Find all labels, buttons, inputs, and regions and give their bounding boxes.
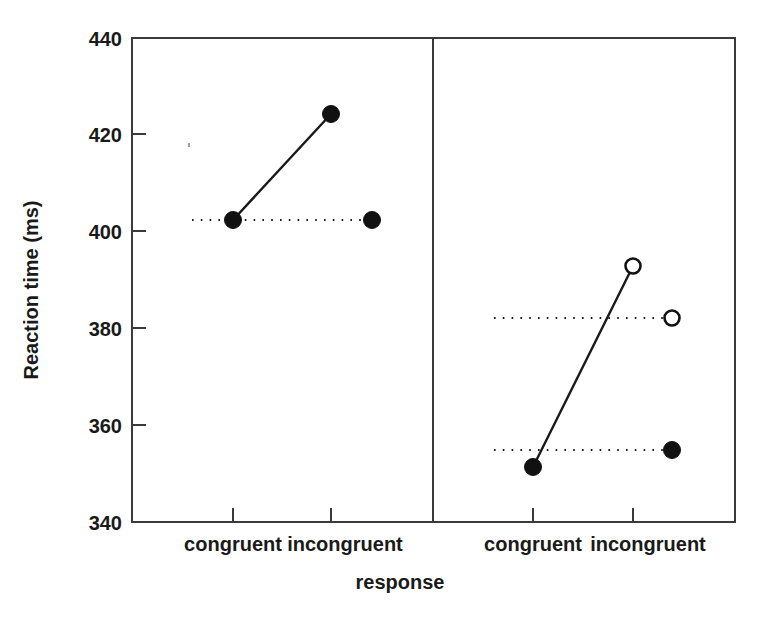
y-axis-title: Reaction time (ms): [20, 201, 42, 380]
left-series-line: [233, 114, 331, 220]
x-axis-title: response: [356, 571, 445, 593]
y-tick-label: 440: [89, 28, 122, 50]
left-point-congruent-filled: [225, 212, 242, 229]
y-tick-label: 340: [89, 512, 122, 534]
left-reference-endpoint-filled: [364, 212, 381, 229]
x-tick-label-right-congruent: congruent: [484, 533, 582, 555]
y-axis-tick-labels: 440 420 400 380 360 340: [89, 28, 122, 534]
y-tick-label: 400: [89, 221, 122, 243]
x-axis-tick-labels: congruent incongruent congruent incongru…: [184, 533, 706, 555]
right-reference-endpoint-open: [665, 311, 680, 326]
left-panel-plot: [192, 106, 381, 229]
right-point-incongruent-open: [626, 259, 641, 274]
x-tick-label-left-congruent: congruent: [184, 533, 282, 555]
chart-canvas: 440 420 400 380 360 340 Reaction time (m…: [0, 0, 762, 624]
right-series-line: [533, 266, 633, 467]
x-tick-label-left-incongruent: incongruent: [287, 533, 403, 555]
right-reference-endpoint-filled: [664, 442, 681, 459]
print-speck: [188, 143, 190, 147]
y-tick-label: 380: [89, 318, 122, 340]
left-point-incongruent-filled: [323, 106, 340, 123]
y-tick-label: 420: [89, 124, 122, 146]
right-panel-plot: [494, 259, 681, 476]
x-tick-label-right-incongruent: incongruent: [590, 533, 706, 555]
right-point-congruent-filled: [525, 459, 542, 476]
chart-figure: 440 420 400 380 360 340 Reaction time (m…: [0, 0, 762, 624]
y-tick-label: 360: [89, 415, 122, 437]
y-axis-ticks: [132, 38, 146, 522]
